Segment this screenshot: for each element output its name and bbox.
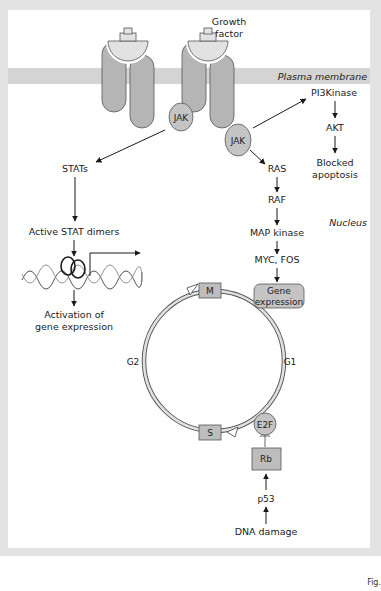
gene-expression-label: Gene — [267, 286, 291, 296]
jak-right-label: JAK — [230, 136, 247, 146]
rb-label: Rb — [260, 454, 272, 464]
raf-label: RAF — [268, 194, 286, 205]
jak-left-label: JAK — [173, 113, 190, 123]
activation-label-2: gene expression — [35, 321, 113, 332]
dna-damage-label: DNA damage — [235, 526, 298, 537]
gene-expression-label-2: expression — [255, 297, 304, 307]
myc-fos-label: MYC, FOS — [254, 254, 299, 265]
activation-label: Activation of — [44, 309, 104, 320]
phase-m-label: M — [206, 286, 214, 296]
active-stat-dimers-label: Active STAT dimers — [29, 226, 120, 237]
pi3kinase-label: PI3Kinase — [311, 87, 357, 98]
arrow-jak-to-stats — [96, 130, 165, 162]
arrow-jak-to-ras — [250, 150, 265, 164]
growth-factor-label-2: factor — [215, 28, 243, 39]
phase-g1-label: G1 — [284, 357, 297, 367]
phase-m-box: M — [199, 283, 221, 298]
blocked-apoptosis-label-2: apoptosis — [312, 169, 358, 180]
inhibition-rb-e2f — [260, 435, 270, 447]
blocked-apoptosis-label: Blocked — [316, 157, 353, 168]
gene-expression-box: Gene expression — [254, 284, 304, 308]
phase-g2-label: G2 — [127, 357, 140, 367]
signaling-pathway-diagram: Plasma membrane Growth factor JAK JAK — [0, 0, 381, 591]
plasma-membrane-label: Plasma membrane — [278, 71, 367, 82]
phase-s-box: S — [199, 425, 221, 440]
stats-label: STATs — [62, 163, 88, 174]
figure-caption: Fig. — [367, 578, 381, 587]
ras-label: RAS — [268, 163, 287, 174]
e2f-protein: E2F — [254, 413, 276, 435]
rb-box: Rb — [252, 448, 281, 470]
p53-label: p53 — [257, 494, 274, 504]
stat-dimer — [61, 257, 85, 278]
arrow-jak-to-pi3kinase — [253, 99, 306, 128]
jak-right: JAK — [225, 124, 251, 156]
map-kinase-label: MAP kinase — [250, 227, 304, 238]
e2f-label: E2F — [257, 420, 274, 430]
growth-factor-label: Growth — [212, 16, 246, 27]
jak-left: JAK — [169, 103, 193, 131]
phase-s-label: S — [207, 428, 213, 438]
nucleus-label: Nucleus — [329, 217, 367, 228]
akt-label: AKT — [326, 122, 344, 133]
